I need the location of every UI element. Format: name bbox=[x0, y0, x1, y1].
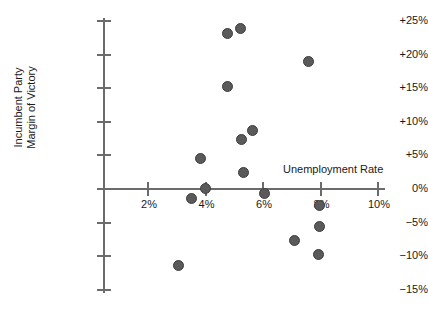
data-point bbox=[200, 183, 211, 194]
y-tick-label: 0% bbox=[372, 183, 428, 194]
x-tick-mark bbox=[377, 182, 379, 196]
y-tick-label: +5% bbox=[372, 149, 428, 160]
data-point bbox=[247, 125, 258, 136]
y-tick-label: +20% bbox=[372, 49, 428, 60]
y-tick-mark bbox=[97, 222, 111, 224]
y-tick-label: −10% bbox=[372, 250, 428, 261]
data-point bbox=[235, 23, 246, 34]
data-point bbox=[289, 235, 300, 246]
data-point bbox=[259, 188, 270, 199]
x-tick-label: 2% bbox=[127, 198, 171, 210]
y-axis-title-line-1: Incumbent Party bbox=[12, 48, 25, 168]
y-tick-mark bbox=[97, 87, 111, 89]
data-point bbox=[222, 28, 233, 39]
data-point bbox=[313, 249, 324, 260]
data-point bbox=[173, 260, 184, 271]
y-tick-mark bbox=[97, 20, 111, 22]
y-axis-title: Incumbent Party Margin of Victory bbox=[12, 48, 37, 168]
scatter-chart: Incumbent Party Margin of Victory Unempl… bbox=[0, 0, 428, 315]
data-point bbox=[303, 56, 314, 67]
y-tick-label: +15% bbox=[372, 82, 428, 93]
data-point bbox=[222, 81, 233, 92]
y-tick-label: −15% bbox=[372, 284, 428, 295]
y-tick-mark bbox=[97, 255, 111, 257]
x-tick-mark bbox=[320, 182, 322, 196]
data-point bbox=[314, 221, 325, 232]
x-tick-label: 6% bbox=[242, 198, 286, 210]
data-point bbox=[236, 134, 247, 145]
x-axis-title: Unemployment Rate bbox=[283, 163, 383, 175]
y-tick-label: +10% bbox=[372, 116, 428, 127]
y-tick-mark bbox=[97, 188, 111, 190]
y-tick-mark bbox=[97, 154, 111, 156]
data-point bbox=[238, 167, 249, 178]
y-axis-title-line-2: Margin of Victory bbox=[24, 48, 37, 168]
y-tick-mark bbox=[97, 289, 111, 291]
y-tick-mark bbox=[97, 121, 111, 123]
data-point bbox=[314, 200, 325, 211]
y-tick-mark bbox=[97, 54, 111, 56]
x-axis-line bbox=[97, 188, 385, 190]
x-tick-mark bbox=[147, 182, 149, 196]
y-tick-label: +25% bbox=[372, 15, 428, 26]
x-tick-label: 10% bbox=[357, 198, 401, 210]
data-point bbox=[195, 153, 206, 164]
y-tick-label: −5% bbox=[372, 217, 428, 228]
